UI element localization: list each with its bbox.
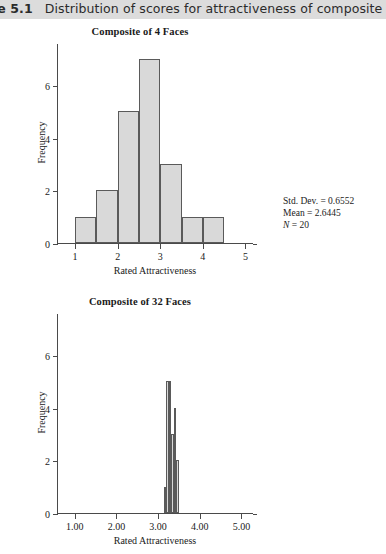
histogram-bar — [96, 190, 117, 243]
x-axis-tick-label: 2 — [115, 251, 120, 262]
y-axis-tick — [53, 409, 58, 410]
x-axis-tick — [116, 514, 117, 519]
y-axis-tick — [53, 139, 58, 140]
n-value-1: = 20 — [289, 220, 309, 230]
histogram-bar — [139, 59, 160, 243]
x-axis-extension-1 — [253, 244, 257, 245]
x-axis-tick-label: 5.00 — [233, 521, 251, 532]
x-axis-tick-label: 4.00 — [191, 521, 209, 532]
x-axis-extension-2 — [253, 514, 257, 515]
figure-caption-band: ure 5.1Distribution of scores for attrac… — [0, 0, 386, 19]
sample-size-1: N = 20 — [283, 219, 354, 231]
figure-number: ure 5.1 — [0, 1, 33, 16]
mean-value-1: Mean = 2.6445 — [283, 207, 354, 219]
x-axis-tick — [160, 244, 161, 249]
chart-title-2: Composite of 32 Faces — [0, 296, 280, 307]
y-axis-title-2: Frequency — [36, 383, 47, 443]
y-axis-tick — [53, 461, 58, 462]
y-axis-title-1: Frequency — [36, 113, 47, 173]
x-axis-title-1: Rated Attractiveness — [114, 265, 196, 276]
histogram-bar — [203, 217, 224, 243]
x-axis-tick — [158, 514, 159, 519]
chart-composite-of-32-faces: Composite of 32 Faces 02461.002.003.004.… — [0, 296, 386, 554]
y-axis-tick-label: 6 — [45, 81, 50, 92]
x-axis-tick-label: 3 — [158, 251, 163, 262]
y-axis-tick-label: 0 — [45, 239, 50, 250]
x-axis-tick-label: 1 — [73, 251, 78, 262]
stats-annotation-1: Std. Dev. = 0.6552 Mean = 2.6445 N = 20 — [283, 195, 354, 232]
figure-caption-text: Distribution of scores for attractivenes… — [33, 1, 383, 16]
x-axis-tick — [203, 244, 204, 249]
histogram-bar — [118, 111, 139, 243]
chart-title-1: Composite of 4 Faces — [0, 26, 280, 37]
x-axis-title-2: Rated Attractiveness — [114, 535, 196, 546]
x-axis-tick-label: 4 — [200, 251, 205, 262]
x-axis-tick — [241, 514, 242, 519]
x-axis-tick-label: 2.00 — [108, 521, 126, 532]
plot-area-1: 024612345 — [57, 44, 253, 244]
plot-area-2: 02461.002.003.004.005.00 — [57, 314, 253, 514]
histogram-bar — [75, 217, 96, 243]
y-axis-tick — [53, 191, 58, 192]
std-dev-value-1: Std. Dev. = 0.6552 — [283, 195, 354, 207]
histogram-bar — [160, 164, 181, 243]
y-axis-tick — [53, 514, 58, 515]
y-axis-tick-label: 0 — [45, 509, 50, 520]
x-axis-tick-label: 3.00 — [149, 521, 167, 532]
figure-caption: ure 5.1Distribution of scores for attrac… — [0, 1, 382, 16]
y-axis-tick-label: 6 — [45, 351, 50, 362]
x-axis-tick-label: 1.00 — [66, 521, 84, 532]
y-axis-tick-label: 2 — [45, 456, 50, 467]
histogram-bar — [182, 217, 203, 243]
chart-composite-of-4-faces: Composite of 4 Faces 024612345 Rated Att… — [0, 26, 386, 284]
x-axis-tick — [75, 514, 76, 519]
x-axis-tick — [75, 244, 76, 249]
bar-series-1 — [58, 44, 253, 243]
bar-series-2 — [58, 314, 253, 513]
histogram-bar — [176, 460, 179, 513]
y-axis-tick — [53, 244, 58, 245]
x-axis-tick-label: 5 — [243, 251, 248, 262]
x-axis-tick — [200, 514, 201, 519]
y-axis-tick-label: 2 — [45, 186, 50, 197]
x-axis-tick — [118, 244, 119, 249]
y-axis-tick — [53, 356, 58, 357]
x-axis-tick — [245, 244, 246, 249]
y-axis-tick — [53, 86, 58, 87]
